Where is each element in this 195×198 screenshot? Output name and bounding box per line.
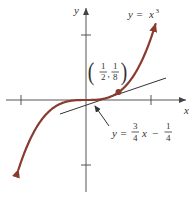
svg-text:(: ( <box>88 57 94 85</box>
tangent-label: y = 3 4 x − 1 4 <box>111 121 172 143</box>
x-axis-label: x <box>183 104 189 116</box>
svg-text:y =: y = <box>111 127 127 139</box>
y-axis-label: y <box>73 4 79 16</box>
svg-text:3: 3 <box>156 7 160 15</box>
svg-text:): ) <box>121 57 127 85</box>
svg-text:4: 4 <box>133 133 138 143</box>
svg-text:y =: y = <box>127 8 143 20</box>
point-label: ( 1 2 , 1 8 ) <box>88 57 127 85</box>
svg-text:1: 1 <box>113 61 118 71</box>
svg-text:4: 4 <box>166 133 171 143</box>
svg-text:,: , <box>108 69 110 79</box>
curve-label: y = x 3 <box>127 7 160 20</box>
svg-text:2: 2 <box>101 72 106 82</box>
svg-text:1: 1 <box>101 61 106 71</box>
svg-text:8: 8 <box>113 72 118 82</box>
svg-text:3: 3 <box>133 121 138 131</box>
tangent-pointer-arrow <box>95 106 109 126</box>
tangency-point <box>116 89 122 95</box>
graph-canvas: y x ( 1 2 , 1 8 ) y = x 3 y = 3 4 x − 1 … <box>0 0 195 198</box>
svg-text:x: x <box>141 127 147 139</box>
svg-text:1: 1 <box>166 121 171 131</box>
svg-text:−: − <box>152 127 158 139</box>
cubic-curve <box>18 24 155 170</box>
svg-text:x: x <box>148 8 154 20</box>
